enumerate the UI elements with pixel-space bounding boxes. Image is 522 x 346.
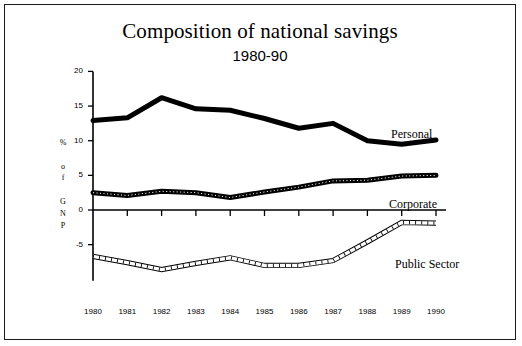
series-line-corporate [93, 175, 436, 197]
plot-area [5, 5, 517, 341]
chart-canvas: Composition of national savings 1980-90 … [5, 5, 515, 339]
series-label-public-sector: Public Sector [395, 257, 459, 272]
chart-frame: Composition of national savings 1980-90 … [4, 4, 516, 340]
series-line-personal [93, 98, 436, 144]
series-label-corporate: Corporate [389, 197, 437, 212]
series-label-personal: Personal [391, 127, 432, 142]
data-series-group [93, 98, 436, 270]
series-line-public-sector [93, 222, 436, 269]
